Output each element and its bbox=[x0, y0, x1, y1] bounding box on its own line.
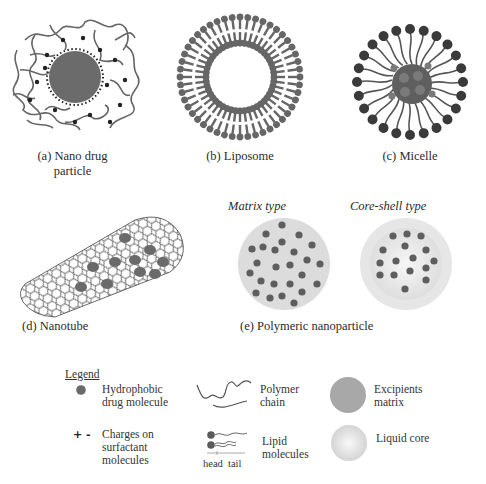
legend-charges-line1: Charges on bbox=[102, 428, 154, 441]
legend-title: Legend bbox=[65, 368, 99, 381]
legend-hydrophobic-line2: drug molecule bbox=[102, 396, 168, 409]
liposome-illustration bbox=[170, 12, 310, 142]
caption-polymeric-nanoparticle: (e) Polymeric nanoparticle bbox=[240, 319, 373, 334]
legend-liquid-core: Liquid core bbox=[376, 432, 429, 445]
liquid-core-icon bbox=[330, 424, 368, 462]
polymer-chain-icon bbox=[195, 377, 255, 412]
legend-charges-line2: surfactant bbox=[102, 441, 154, 454]
lipid-tail-label: tail bbox=[228, 457, 241, 470]
hydrophobic-drug-dot-icon bbox=[75, 384, 87, 396]
matrix-type-nanoparticle bbox=[236, 216, 332, 312]
caption-nano-drug-particle-line2: particle bbox=[20, 164, 125, 179]
legend-lipid-line1: Lipid bbox=[262, 435, 309, 448]
caption-micelle: (c) Micelle bbox=[365, 149, 455, 164]
legend-polymer-line1: Polymer bbox=[260, 383, 299, 396]
legend-excipients-line2: matrix bbox=[374, 396, 423, 409]
legend-excipients-line1: Excipients bbox=[374, 383, 423, 396]
caption-nano-drug-particle-line1: (a) Nano drug bbox=[20, 149, 125, 164]
caption-nanotube: (d) Nanotube bbox=[22, 319, 88, 334]
lipid-head-label: head bbox=[203, 457, 223, 470]
drug-core bbox=[49, 51, 101, 103]
charges-icon: + - bbox=[73, 428, 91, 441]
nanotube-illustration bbox=[15, 212, 195, 312]
micelle-illustration bbox=[350, 22, 470, 142]
legend-hydrophobic-line1: Hydrophobic bbox=[102, 383, 168, 396]
caption-liposome: (b) Liposome bbox=[185, 149, 295, 164]
excipients-matrix-icon bbox=[329, 376, 367, 414]
nano-drug-particle-illustration bbox=[5, 10, 145, 135]
label-core-shell-type: Core-shell type bbox=[350, 199, 426, 214]
label-matrix-type: Matrix type bbox=[228, 199, 286, 214]
legend-lipid-line2: molecules bbox=[262, 448, 309, 461]
lipid-molecule-icon bbox=[205, 430, 265, 460]
legend-polymer-line2: chain bbox=[260, 396, 299, 409]
core-shell-type-nanoparticle bbox=[358, 216, 454, 312]
legend-charges-line3: molecules bbox=[102, 454, 154, 467]
micelle-core bbox=[392, 64, 432, 104]
